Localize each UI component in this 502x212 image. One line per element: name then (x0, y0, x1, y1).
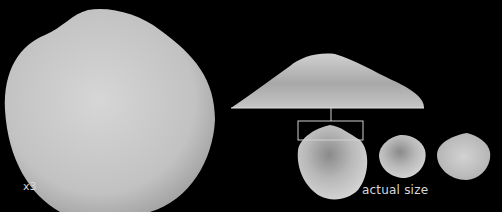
hinge-detail (231, 54, 424, 108)
actual-shell-2 (379, 135, 426, 178)
shell-figure: x3 actual size (0, 0, 502, 212)
shell-illustrations (0, 0, 502, 212)
actual-shell-3 (437, 133, 490, 180)
actual-shell-1 (298, 125, 368, 199)
magnification-label: x3 (23, 180, 37, 193)
actual-size-label: actual size (362, 183, 428, 197)
